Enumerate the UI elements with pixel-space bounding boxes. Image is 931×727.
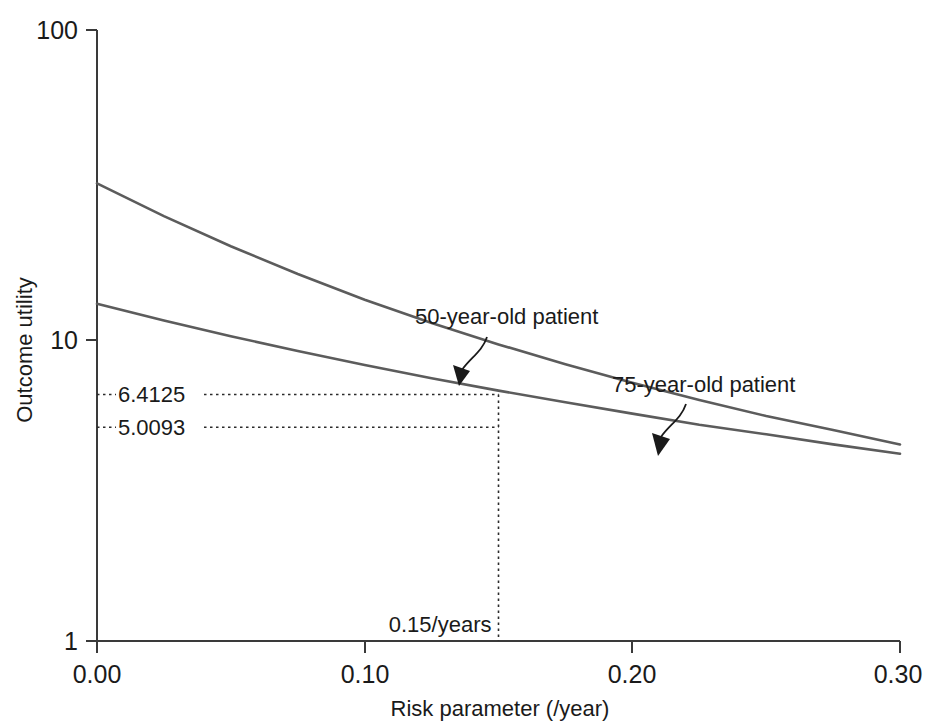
- x-marker-label: 0.15/years: [389, 612, 492, 637]
- y-tick-label-1: 1: [64, 627, 78, 655]
- x-tick-label-020: 0.20: [608, 660, 657, 688]
- y-tick-label-10: 10: [50, 326, 78, 354]
- chart-figure: 100 10 1 0.00 0.10 0.20 0.30 Outcome uti…: [0, 0, 931, 727]
- tick-label-group: 100 10 1 0.00 0.10 0.20 0.30: [36, 16, 922, 688]
- y-tick-label-100: 100: [36, 16, 78, 44]
- x-tick-label-010: 0.10: [341, 660, 390, 688]
- callout-50-year-old: 50-year-old patient: [415, 304, 598, 386]
- callout-label-75-year-old: 75-year-old patient: [612, 372, 795, 397]
- value-label-lower: 5.0093: [118, 415, 185, 440]
- callout-label-50-year-old: 50-year-old patient: [415, 304, 598, 329]
- y-axis-title: Outcome utility: [12, 277, 37, 423]
- outcome-utility-vs-risk-parameter-chart: 100 10 1 0.00 0.10 0.20 0.30 Outcome uti…: [0, 0, 931, 727]
- x-axis-title: Risk parameter (/year): [391, 696, 610, 721]
- x-tick-label-000: 0.00: [73, 660, 122, 688]
- callout-arrowhead-75-year-old: [652, 433, 670, 456]
- x-tick-label-030: 0.30: [874, 660, 923, 688]
- value-label-upper: 6.4125: [118, 382, 185, 407]
- callout-arrow-50-year-old: [462, 337, 487, 370]
